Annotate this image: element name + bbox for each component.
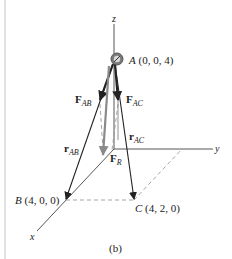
r-ac-label: rAC: [129, 131, 144, 142]
point-c-label: C (4, 2, 0): [135, 203, 180, 214]
x-axis-label: x: [30, 232, 34, 242]
x-axis: [37, 149, 114, 231]
y-axis-label: y: [215, 144, 219, 154]
f-r-vector: [103, 66, 109, 155]
z-axis-label: z: [112, 14, 116, 24]
point-a-label: A (0, 0, 4): [129, 55, 173, 66]
construction-lines: [66, 104, 182, 200]
ring-at-a: [111, 53, 123, 65]
f-r-label: FR: [110, 153, 122, 164]
vector-diagram: z y x A (0, 0, 4) B (4, 0, 0) C (4, 2, 0…: [0, 0, 232, 259]
f-ac-vector: [115, 64, 118, 100]
f-ab-label: FAB: [75, 94, 92, 105]
figure-caption: (b): [109, 243, 122, 254]
point-b-label: B (4, 0, 0): [15, 195, 59, 206]
f-ac-label: FAC: [126, 94, 143, 105]
diagram-canvas: [0, 0, 232, 259]
r-ab-label: rAB: [64, 143, 79, 154]
